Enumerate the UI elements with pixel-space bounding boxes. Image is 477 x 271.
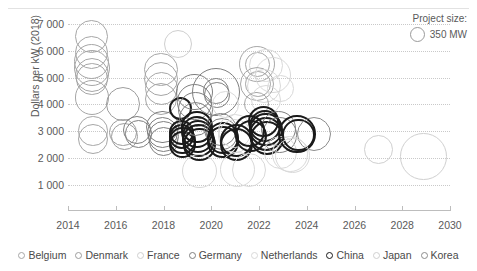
x-tick-mark [211, 206, 212, 211]
x-tick-label: 2020 [200, 219, 223, 231]
y-tick-label: 3 000 [10, 125, 64, 137]
data-bubble [75, 80, 109, 114]
legend-label: Netherlands [261, 249, 318, 261]
country-legend: BelgiumDenmarkFranceGermanyNetherlandsCh… [0, 249, 477, 261]
legend-bubble-icon [373, 252, 380, 259]
data-bubble [78, 124, 108, 154]
x-tick-label: 2024 [295, 219, 318, 231]
y-tick-label: 2 000 [10, 152, 64, 164]
legend-item-france[interactable]: France [137, 249, 180, 261]
x-tick-label: 2030 [438, 219, 461, 231]
y-tick-label: 4 000 [10, 98, 64, 110]
x-tick-label: 2018 [152, 219, 175, 231]
y-tick-label: 7 000 [10, 18, 64, 30]
data-bubble [164, 30, 192, 58]
legend-item-belgium[interactable]: Belgium [18, 249, 66, 261]
legend-item-germany[interactable]: Germany [189, 249, 242, 261]
x-axis: 201420162018202020222024202620282030 [68, 210, 450, 211]
data-bubble [364, 135, 393, 164]
legend-item-korea[interactable]: Korea [421, 249, 459, 261]
legend-bubble-icon [75, 252, 82, 259]
legend-label: Japan [383, 249, 412, 261]
x-tick-mark [355, 206, 356, 211]
legend-item-denmark[interactable]: Denmark [75, 249, 128, 261]
size-legend: Project size: 350 MW [410, 12, 467, 42]
bubble-chart: Dollars per kW (2018) 1 0002 0003 0004 0… [0, 0, 477, 271]
x-tick-label: 2016 [104, 219, 127, 231]
x-tick-mark [259, 206, 260, 211]
legend-bubble-icon [189, 252, 196, 259]
data-bubble [275, 138, 310, 173]
legend-bubble-icon [137, 252, 144, 259]
x-tick-mark [164, 206, 165, 211]
y-tick-label: 6 000 [10, 45, 64, 57]
legend-bubble-icon [251, 252, 258, 259]
legend-label: Germany [199, 249, 242, 261]
data-bubble [232, 153, 266, 187]
x-tick-label: 2026 [343, 219, 366, 231]
data-bubble [235, 120, 267, 152]
x-tick-mark [307, 206, 308, 211]
data-bubble [400, 133, 447, 180]
legend-item-china[interactable]: China [326, 249, 363, 261]
x-tick-mark [450, 206, 451, 211]
x-tick-mark [68, 206, 69, 211]
data-bubble [182, 154, 216, 188]
size-legend-title: Project size: [410, 12, 467, 25]
y-tick-label: 1 000 [10, 179, 64, 191]
legend-label: Denmark [85, 249, 128, 261]
data-bubbles [68, 16, 450, 198]
legend-item-japan[interactable]: Japan [373, 249, 412, 261]
top-divider [8, 8, 469, 9]
legend-item-netherlands[interactable]: Netherlands [251, 249, 318, 261]
legend-label: Korea [431, 249, 459, 261]
x-tick-label: 2014 [56, 219, 79, 231]
size-legend-bubble-icon [410, 27, 425, 42]
legend-bubble-icon [18, 252, 25, 259]
x-tick-label: 2028 [391, 219, 414, 231]
x-tick-mark [402, 206, 403, 211]
plot-area [68, 16, 450, 198]
legend-label: Belgium [28, 249, 66, 261]
y-tick-label: 5 000 [10, 72, 64, 84]
size-legend-value: 350 MW [430, 28, 467, 41]
legend-label: China [336, 249, 363, 261]
legend-bubble-icon [421, 252, 428, 259]
legend-label: France [147, 249, 180, 261]
legend-bubble-icon [326, 252, 333, 259]
x-tick-mark [116, 206, 117, 211]
x-tick-label: 2022 [247, 219, 270, 231]
